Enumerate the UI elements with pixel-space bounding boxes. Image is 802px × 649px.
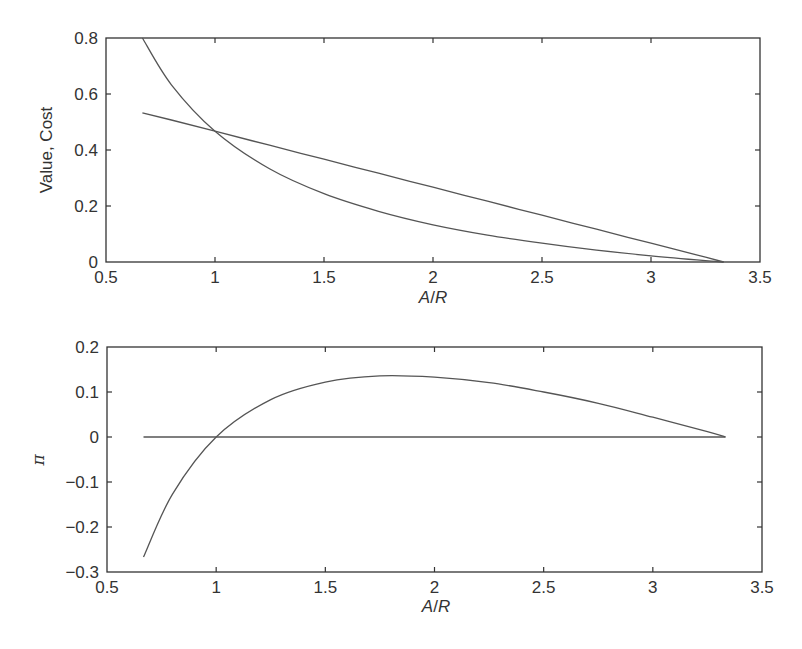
series-line-profit- xyxy=(144,376,726,558)
x-tick-label: 2 xyxy=(430,578,439,597)
y-tick-label: −0.2 xyxy=(65,518,99,537)
bottom-series-lines xyxy=(144,376,726,558)
y-tick-label: 0.4 xyxy=(74,141,98,160)
x-tick-label: 1.5 xyxy=(312,268,336,287)
x-tick-label: 1.5 xyxy=(314,578,338,597)
y-tick-label: 0.2 xyxy=(75,338,99,357)
x-tick-label: 2.5 xyxy=(530,268,554,287)
bottom-y-ticks: −0.3−0.2−0.100.10.2 xyxy=(65,338,762,582)
x-tick-label: 1 xyxy=(211,578,220,597)
bottom-plot-frame xyxy=(107,347,762,572)
bottom-y-axis-label: π xyxy=(28,454,48,467)
x-tick-label: 3 xyxy=(646,268,655,287)
top-x-axis-label: A/R xyxy=(418,288,447,307)
x-tick-label: 2.5 xyxy=(532,578,556,597)
x-label-b: R xyxy=(438,597,450,616)
series-line-cost xyxy=(142,38,723,262)
bottom-x-axis-label: A/R xyxy=(421,597,450,616)
series-line-value xyxy=(142,113,723,262)
bottom-x-ticks: 0.511.522.533.5 xyxy=(95,347,774,597)
x-tick-label: 3.5 xyxy=(748,268,772,287)
x-tick-label: 1 xyxy=(210,268,219,287)
x-label-a: A xyxy=(418,288,430,307)
top-plot: 0.511.522.533.5 00.20.40.60.8 Value, Cos… xyxy=(37,29,772,307)
y-tick-label: 0.6 xyxy=(74,85,98,104)
figure: 0.511.522.533.5 00.20.40.60.8 Value, Cos… xyxy=(0,0,802,649)
x-tick-label: 3.5 xyxy=(750,578,774,597)
top-x-ticks: 0.511.522.533.5 xyxy=(94,38,772,287)
top-y-axis-label: Value, Cost xyxy=(37,106,56,193)
x-tick-label: 3 xyxy=(648,578,657,597)
top-y-ticks: 00.20.40.60.8 xyxy=(74,29,760,272)
x-label-b: R xyxy=(435,288,447,307)
y-tick-label: 0.1 xyxy=(75,383,99,402)
y-tick-label: 0.8 xyxy=(74,29,98,48)
x-tick-label: 2 xyxy=(428,268,437,287)
y-tick-label: 0 xyxy=(89,253,98,272)
top-plot-frame xyxy=(106,38,760,262)
y-tick-label: −0.3 xyxy=(65,563,99,582)
top-series-lines xyxy=(142,38,723,262)
x-label-a: A xyxy=(421,597,433,616)
bottom-plot: 0.511.522.533.5 −0.3−0.2−0.100.10.2 π A/… xyxy=(28,338,774,616)
y-tick-label: 0 xyxy=(90,428,99,447)
y-tick-label: −0.1 xyxy=(65,473,99,492)
y-tick-label: 0.2 xyxy=(74,197,98,216)
